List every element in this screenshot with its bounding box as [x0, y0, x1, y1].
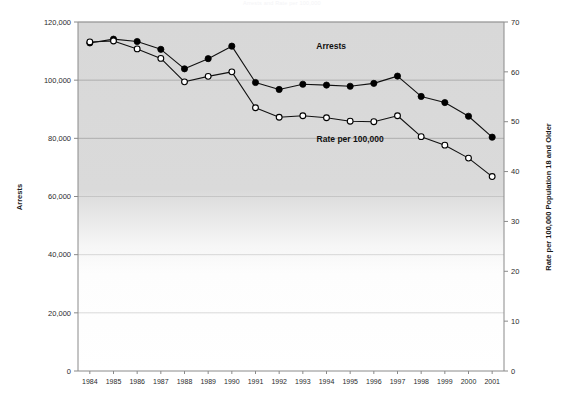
x-tick-label: 1995	[342, 378, 358, 385]
right-tick-label: 30	[511, 217, 519, 226]
data-point	[418, 134, 424, 140]
data-point	[111, 38, 117, 44]
right-tick-label: 0	[511, 367, 515, 376]
right-tick-label: 20	[511, 267, 519, 276]
left-tick-label: 40,000	[48, 250, 71, 259]
x-tick-label: 1987	[153, 378, 169, 385]
data-point	[252, 79, 258, 85]
right-tick-label: 60	[511, 68, 519, 77]
data-point	[489, 134, 495, 140]
right-axis-ticks: 010203040506070	[504, 18, 519, 376]
x-tick-label: 1992	[271, 378, 287, 385]
data-point	[418, 93, 424, 99]
left-axis-title: Arrests	[15, 184, 24, 210]
data-point	[324, 115, 330, 121]
x-tick-label: 1993	[295, 378, 311, 385]
x-tick-label: 1991	[248, 378, 264, 385]
right-tick-label: 40	[511, 167, 519, 176]
x-tick-label: 1999	[437, 378, 453, 385]
left-tick-label: 60,000	[48, 192, 71, 201]
data-point	[134, 46, 140, 52]
data-point	[465, 113, 471, 119]
data-point	[205, 73, 211, 79]
x-tick-label: 1998	[413, 378, 429, 385]
data-point	[394, 73, 400, 79]
data-point	[300, 81, 306, 87]
data-point	[253, 105, 259, 111]
data-point	[489, 174, 495, 180]
right-tick-label: 50	[511, 117, 519, 126]
data-point	[229, 69, 235, 75]
right-tick-label: 70	[511, 18, 519, 27]
series-annotation: Rate per 100,000	[317, 134, 384, 144]
data-point	[182, 79, 188, 85]
x-axis-ticks: 1984198519861987198819891990199119921993…	[82, 371, 500, 385]
data-point	[347, 83, 353, 89]
data-point	[276, 114, 282, 120]
x-tick-label: 1988	[177, 378, 193, 385]
x-tick-label: 1984	[82, 378, 98, 385]
left-tick-label: 100,000	[44, 76, 71, 85]
data-point	[300, 113, 306, 119]
x-tick-label: 2000	[461, 378, 477, 385]
data-point	[134, 38, 140, 44]
data-point	[442, 142, 448, 148]
left-tick-label: 80,000	[48, 134, 71, 143]
x-tick-label: 1986	[129, 378, 145, 385]
data-point	[158, 46, 164, 52]
chart-title: Arrests and Rate per 100,000	[0, 0, 564, 6]
left-tick-label: 20,000	[48, 309, 71, 318]
data-point	[229, 43, 235, 49]
data-point	[442, 99, 448, 105]
data-point	[87, 39, 93, 45]
series-annotation: Arrests	[316, 41, 346, 51]
data-point	[371, 80, 377, 86]
data-point	[276, 86, 282, 92]
data-point	[347, 118, 353, 124]
data-point	[181, 66, 187, 72]
x-tick-label: 1996	[366, 378, 382, 385]
left-tick-label: 0	[67, 367, 71, 376]
x-tick-label: 1997	[390, 378, 406, 385]
data-point	[395, 113, 401, 119]
data-point	[371, 119, 377, 125]
x-tick-label: 2001	[484, 378, 500, 385]
x-tick-label: 1990	[224, 378, 240, 385]
chart-container: Arrests and Rate per 100,000 020,00040,0…	[0, 0, 564, 416]
x-tick-label: 1989	[200, 378, 216, 385]
x-tick-label: 1985	[106, 378, 122, 385]
data-point	[158, 56, 164, 62]
left-axis-ticks: 020,00040,00060,00080,000100,000120,000	[44, 18, 78, 376]
chart-svg: 020,00040,00060,00080,000100,000120,000 …	[0, 0, 564, 416]
right-tick-label: 10	[511, 317, 519, 326]
data-point	[323, 82, 329, 88]
x-tick-label: 1994	[319, 378, 335, 385]
data-point	[205, 56, 211, 62]
left-tick-label: 120,000	[44, 18, 71, 27]
data-point	[466, 155, 472, 161]
right-axis-title: Rate per 100,000 Population 18 and Older	[544, 123, 553, 271]
